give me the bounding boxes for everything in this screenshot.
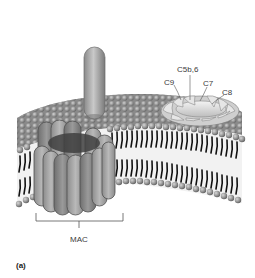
c9-label: C9 — [164, 78, 175, 87]
c9-monomer-rod — [84, 47, 105, 120]
panel-label: (a) — [16, 261, 26, 270]
c7-label: C7 — [203, 79, 214, 88]
mac-label: MAC — [70, 235, 88, 244]
pore-ring-complex — [161, 96, 239, 126]
mac-membrane-diagram: MAC C5b,6 C9 C7 C8 (a) — [0, 0, 255, 278]
c8-label: C8 — [222, 88, 233, 97]
c5b6-label: C5b,6 — [177, 65, 199, 74]
mac-bracket — [36, 213, 123, 228]
